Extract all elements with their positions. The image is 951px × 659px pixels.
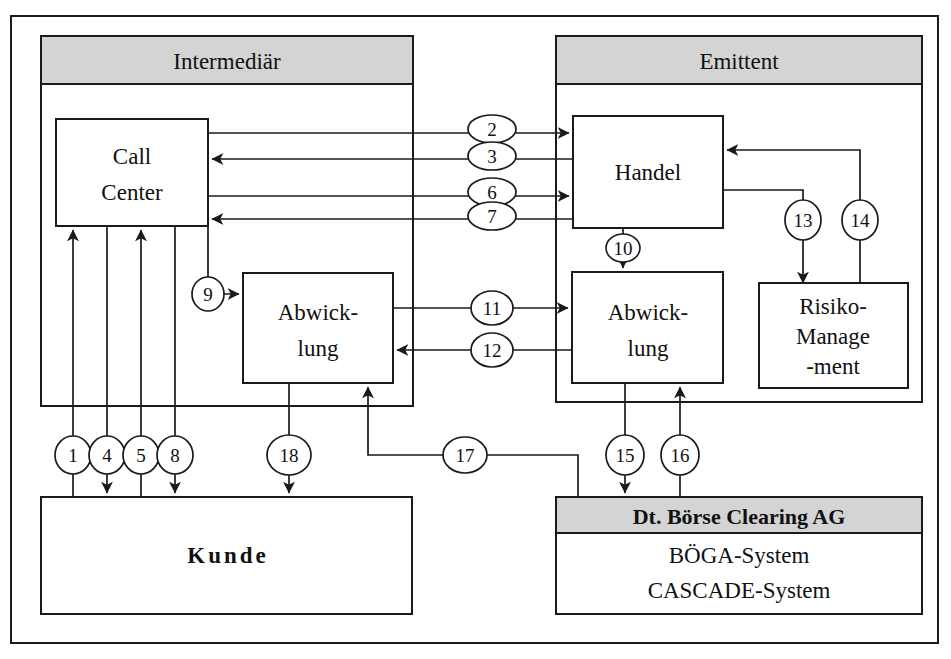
flow-marker-1-label: 1 <box>68 445 78 466</box>
node-risiko-management-label-line3: -ment <box>806 354 860 379</box>
flow-marker-7[interactable]: 7 <box>468 202 516 230</box>
panel-intermediaer-title: Intermediär <box>173 49 281 74</box>
node-abwicklung-links[interactable]: Abwick- lung <box>243 273 393 383</box>
node-abwicklung-links-box <box>243 273 393 383</box>
node-abwicklung-rechts-label-line2: lung <box>628 336 669 361</box>
node-abwicklung-rechts-box <box>572 272 723 383</box>
flow-marker-5-label: 5 <box>136 445 146 466</box>
node-abwicklung-rechts-label-line1: Abwick- <box>608 300 688 325</box>
node-handel-label: Handel <box>615 160 681 185</box>
node-risiko-management-label-line1: Risiko- <box>799 294 867 319</box>
flow-marker-6-label: 6 <box>487 182 497 203</box>
flow-marker-12[interactable]: 12 <box>471 333 513 367</box>
node-call-center-box <box>56 119 208 226</box>
flow-marker-13[interactable]: 13 <box>785 200 821 240</box>
flow-marker-10-label: 10 <box>614 238 633 259</box>
flow-marker-7-label: 7 <box>487 206 497 227</box>
node-abwicklung-links-label-line2: lung <box>298 336 339 361</box>
flow-marker-4-label: 4 <box>102 445 112 466</box>
node-abwicklung-rechts[interactable]: Abwick- lung <box>572 272 723 383</box>
flow-marker-17[interactable]: 17 <box>443 437 487 473</box>
flow-marker-17-label: 17 <box>456 445 475 466</box>
flow-marker-14-label: 14 <box>851 210 871 231</box>
flow-marker-9[interactable]: 9 <box>192 277 224 311</box>
node-dt-boerse-clearing[interactable]: Dt. Börse Clearing AG BÖGA-System CASCAD… <box>556 497 922 614</box>
node-dt-boerse-header-label: Dt. Börse Clearing AG <box>633 504 846 529</box>
flow-marker-10[interactable]: 10 <box>606 234 640 262</box>
node-call-center[interactable]: Call Center <box>56 119 208 226</box>
flow-marker-8-label: 8 <box>170 445 180 466</box>
node-kunde-label: Kunde <box>187 543 268 568</box>
flow-marker-5[interactable]: 5 <box>123 436 159 474</box>
flow-marker-2[interactable]: 2 <box>468 115 516 143</box>
flow-marker-4[interactable]: 4 <box>89 436 125 474</box>
flow-marker-13-label: 13 <box>794 210 813 231</box>
flow-marker-9-label: 9 <box>203 284 213 305</box>
flow-marker-3-label: 3 <box>487 146 497 167</box>
node-call-center-label-line1: Call <box>113 144 151 169</box>
node-dt-boerse-system-line2: CASCADE-System <box>648 578 831 603</box>
flow-marker-18-label: 18 <box>280 445 299 466</box>
flow-marker-2-label: 2 <box>487 119 497 140</box>
flow-marker-15-label: 15 <box>616 445 635 466</box>
flow-marker-8[interactable]: 8 <box>157 436 193 474</box>
diagram-canvas: Intermediär Emittent Call Ce <box>0 0 951 659</box>
node-risiko-management-label-line2: Manage <box>796 324 870 349</box>
node-call-center-label-line2: Center <box>101 180 163 205</box>
flow-marker-11[interactable]: 11 <box>471 291 513 325</box>
flow-marker-11-label: 11 <box>483 298 501 319</box>
node-abwicklung-links-label-line1: Abwick- <box>278 300 358 325</box>
flow-marker-16[interactable]: 16 <box>661 435 699 475</box>
flow-marker-14[interactable]: 14 <box>842 200 878 240</box>
panel-emittent-title: Emittent <box>699 49 779 74</box>
node-handel[interactable]: Handel <box>573 116 723 228</box>
node-kunde[interactable]: Kunde <box>41 497 412 614</box>
flow-marker-16-label: 16 <box>671 445 690 466</box>
flow-marker-15[interactable]: 15 <box>606 435 644 475</box>
flow-marker-1[interactable]: 1 <box>55 436 91 474</box>
flow-marker-18[interactable]: 18 <box>267 435 311 475</box>
node-dt-boerse-system-line1: BÖGA-System <box>669 543 810 568</box>
node-risiko-management[interactable]: Risiko- Manage -ment <box>759 283 908 388</box>
flow-marker-3[interactable]: 3 <box>468 142 516 170</box>
flow-marker-12-label: 12 <box>483 340 502 361</box>
